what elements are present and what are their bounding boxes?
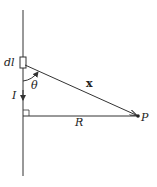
- biot-savart-diagram: dl θ I x R P: [0, 0, 157, 187]
- label-theta: θ: [31, 79, 38, 92]
- point-p-dot: [136, 114, 140, 118]
- label-distance: R: [74, 116, 83, 129]
- current-element-rect: [20, 57, 26, 68]
- label-point: P: [140, 111, 149, 124]
- position-vector-line: [25, 65, 136, 115]
- label-current: I: [11, 89, 17, 102]
- right-angle-marker: [23, 110, 29, 116]
- label-dl: dl: [4, 56, 15, 69]
- label-position-vector: x: [86, 77, 93, 90]
